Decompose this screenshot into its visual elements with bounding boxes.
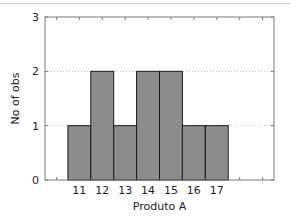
bar-15 <box>160 71 183 180</box>
x-tick-labels: 11121314151617 <box>72 184 223 197</box>
y-tick-label: 3 <box>32 11 39 24</box>
bar-11 <box>68 126 91 180</box>
y-tick-labels: 0123 <box>32 11 39 187</box>
bar-17 <box>205 126 228 180</box>
y-tick-label: 0 <box>32 174 39 187</box>
bar-16 <box>182 126 205 180</box>
bar-12 <box>91 71 114 180</box>
x-tick-label: 11 <box>72 184 86 197</box>
x-tick-label: 14 <box>141 184 155 197</box>
y-axis-title: No of obs <box>9 72 22 124</box>
y-tick-label: 2 <box>32 65 39 78</box>
bars <box>68 71 228 180</box>
bar-14 <box>137 71 160 180</box>
bar-13 <box>114 126 137 180</box>
histogram-chart: 0123 11121314151617 Produto A No of obs <box>0 0 290 221</box>
x-axis-title: Produto A <box>133 200 187 213</box>
x-tick-label: 15 <box>164 184 178 197</box>
x-tick-label: 17 <box>210 184 224 197</box>
y-tick-label: 1 <box>32 120 39 133</box>
x-tick-label: 12 <box>95 184 109 197</box>
x-tick-label: 13 <box>118 184 132 197</box>
x-tick-label: 16 <box>187 184 201 197</box>
